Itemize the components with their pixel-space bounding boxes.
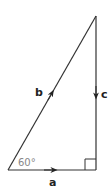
right-angle-marker xyxy=(85,159,96,170)
vector-b-label: b xyxy=(35,86,43,99)
angle-label: 60° xyxy=(18,157,36,168)
vector-a-label: a xyxy=(49,176,56,189)
vector-triangle-diagram: b c a 60° xyxy=(0,0,111,194)
vector-b-arrowhead xyxy=(48,93,52,100)
vector-c-label: c xyxy=(101,88,108,101)
